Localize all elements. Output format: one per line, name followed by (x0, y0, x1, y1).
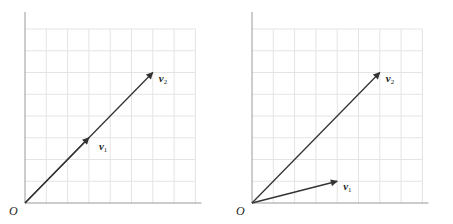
panel-independent-vectors: Ov2v1 (236, 12, 428, 218)
origin-label: O (9, 204, 18, 218)
panel-collinear-vectors: Ov2v1 (9, 12, 201, 218)
vector-label-v2: v2 (159, 72, 168, 86)
vector-label-v1: v1 (343, 180, 352, 194)
vector-diagram: Ov2v1 Ov2v1 (0, 0, 453, 224)
vector-v1 (25, 138, 89, 203)
origin-label: O (236, 204, 245, 218)
vector-label-v1: v1 (99, 140, 108, 154)
vector-label-v2: v2 (386, 72, 395, 86)
